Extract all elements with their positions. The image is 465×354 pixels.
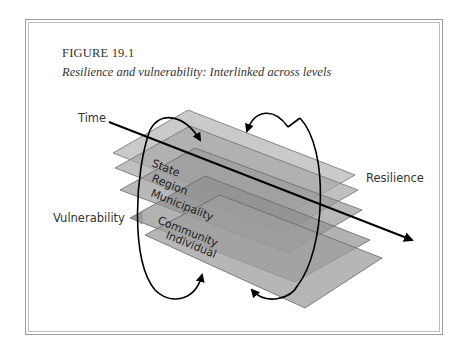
levels-diagram: State Region Municipality Community Indi… (0, 0, 465, 354)
time-label: Time (77, 111, 106, 125)
loop-top-right-arrow-icon (247, 113, 288, 131)
loop-bottom-left-arrow-icon (155, 275, 202, 299)
resilience-label: Resilience (366, 171, 424, 185)
vulnerability-label: Vulnerability (53, 211, 125, 225)
